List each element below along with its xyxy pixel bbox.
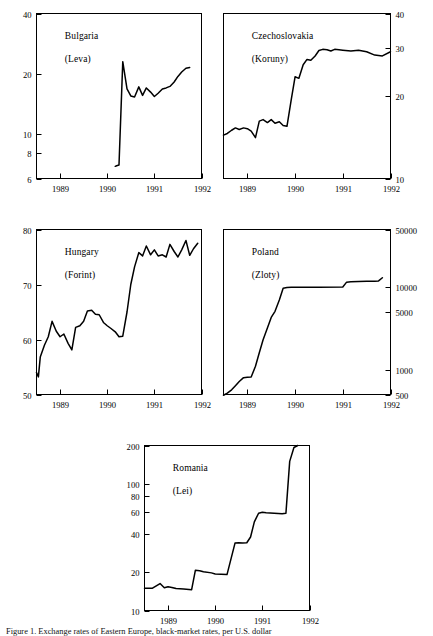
poland-country-label: Poland (252, 247, 279, 257)
romania-ytick-marks (145, 447, 150, 612)
hungary-ytick-label: 60 (23, 336, 32, 346)
czechoslovakia-ytick-label: 30 (396, 44, 405, 54)
bulgaria-ytick-label: 6 (27, 175, 32, 185)
bulgaria-xtick-label: 1990 (99, 184, 116, 194)
poland-data-line (224, 278, 383, 395)
romania-ytick-label: 20 (131, 568, 140, 578)
czechoslovakia-ytick-label: 20 (396, 92, 405, 102)
romania-xtick-label: 1989 (160, 616, 177, 626)
panel-poland: 500100050001000050000 1989199019911992 P… (216, 216, 433, 416)
hungary-xtick-label: 1990 (99, 400, 116, 410)
romania-ytick-labels: 1020406080100200 (127, 442, 140, 617)
poland-xtick-label: 1989 (239, 400, 256, 410)
hungary-currency-label: (Forint) (65, 270, 95, 280)
exchange-rate-figure: 68102040 1989199019911992 Bulgaria (Leva… (0, 0, 433, 636)
bulgaria-ytick-labels: 68102040 (23, 10, 32, 185)
bulgaria-xtick-label: 1991 (146, 184, 163, 194)
czechoslovakia-xtick-label: 1990 (287, 184, 304, 194)
poland-ytick-label: 50000 (396, 226, 417, 236)
hungary-xtick-labels: 1989199019911992 (52, 400, 211, 410)
czechoslovakia-country-label: Czechoslovakia (252, 31, 314, 41)
hungary-plot: 50607080 1989199019911992 (0, 216, 216, 416)
bulgaria-data-line (115, 62, 189, 167)
bulgaria-ytick-label: 40 (23, 10, 32, 20)
bulgaria-ytick-label: 20 (23, 70, 32, 80)
bulgaria-country-label: Bulgaria (65, 31, 99, 41)
romania-plot: 1020406080100200 1989199019911992 (108, 432, 325, 632)
romania-xtick-label: 1991 (254, 616, 271, 626)
czechoslovakia-xtick-marks (248, 174, 392, 179)
czechoslovakia-ytick-labels: 10203040 (396, 10, 405, 185)
hungary-ytick-label: 50 (23, 391, 32, 401)
romania-ytick-label: 200 (127, 442, 140, 452)
poland-xtick-labels: 1989199019911992 (239, 400, 400, 410)
figure-caption: Figure 1. Exchange rates of Eastern Euro… (6, 627, 431, 636)
bulgaria-ytick-marks (37, 15, 42, 180)
hungary-ytick-label: 80 (23, 226, 32, 236)
panel-bulgaria: 68102040 1989199019911992 Bulgaria (Leva… (0, 0, 216, 200)
poland-xtick-label: 1991 (335, 400, 352, 410)
hungary-title: Hungary (Forint) (50, 235, 99, 293)
romania-ytick-label: 80 (131, 492, 140, 502)
hungary-country-label: Hungary (65, 247, 99, 257)
bulgaria-xtick-labels: 1989199019911992 (52, 184, 211, 194)
panel-hungary: 50607080 1989199019911992 Hungary (Forin… (0, 216, 216, 416)
bulgaria-ytick-label: 8 (27, 149, 31, 159)
bulgaria-title: Bulgaria (Leva) (50, 19, 98, 77)
bulgaria-xtick-label: 1992 (194, 184, 211, 194)
romania-xtick-label: 1990 (207, 616, 224, 626)
poland-ytick-marks (386, 231, 391, 396)
czechoslovakia-currency-label: (Koruny) (252, 54, 288, 64)
romania-xtick-marks (169, 606, 311, 611)
czechoslovakia-xtick-label: 1989 (239, 184, 256, 194)
czechoslovakia-ytick-marks (386, 15, 391, 180)
romania-ytick-label: 60 (131, 508, 140, 518)
czechoslovakia-ytick-label: 40 (396, 10, 405, 20)
hungary-xtick-label: 1992 (194, 400, 211, 410)
bulgaria-xtick-label: 1989 (52, 184, 69, 194)
romania-country-label: Romania (173, 463, 208, 473)
poland-xtick-marks (248, 390, 392, 395)
romania-xtick-labels: 1989199019911992 (160, 616, 319, 626)
romania-ytick-label: 100 (127, 480, 140, 490)
bulgaria-currency-label: (Leva) (65, 54, 91, 64)
poland-ytick-label: 1000 (396, 366, 413, 376)
hungary-xtick-marks (61, 390, 203, 395)
poland-ytick-label: 10000 (396, 283, 417, 293)
bulgaria-xtick-marks (61, 174, 203, 179)
hungary-xtick-label: 1989 (52, 400, 69, 410)
hungary-ytick-label: 70 (23, 281, 32, 291)
romania-ytick-label: 40 (131, 530, 140, 540)
romania-title: Romania (Lei) (158, 451, 208, 509)
hungary-ytick-labels: 50607080 (23, 226, 32, 401)
poland-xtick-label: 1990 (287, 400, 304, 410)
bulgaria-plot: 68102040 1989199019911992 (0, 0, 216, 200)
romania-xtick-label: 1992 (302, 616, 319, 626)
bulgaria-ytick-label: 10 (23, 130, 32, 140)
czechoslovakia-xtick-labels: 1989199019911992 (239, 184, 400, 194)
czechoslovakia-xtick-label: 1991 (335, 184, 352, 194)
poland-currency-label: (Zloty) (252, 270, 280, 280)
czechoslovakia-title: Czechoslovakia (Koruny) (237, 19, 313, 77)
czechoslovakia-xtick-label: 1992 (383, 184, 400, 194)
romania-ytick-label: 10 (131, 607, 140, 617)
panel-romania: 1020406080100200 1989199019911992 Romani… (108, 432, 325, 632)
poland-ytick-labels: 500100050001000050000 (396, 226, 417, 401)
poland-xtick-label: 1992 (383, 400, 400, 410)
poland-title: Poland (Zloty) (237, 235, 279, 293)
hungary-xtick-label: 1991 (146, 400, 163, 410)
panel-czechoslovakia: 10203040 1989199019911992 Czechoslovakia… (216, 0, 433, 200)
poland-ytick-label: 5000 (396, 308, 413, 318)
romania-currency-label: (Lei) (173, 486, 193, 496)
